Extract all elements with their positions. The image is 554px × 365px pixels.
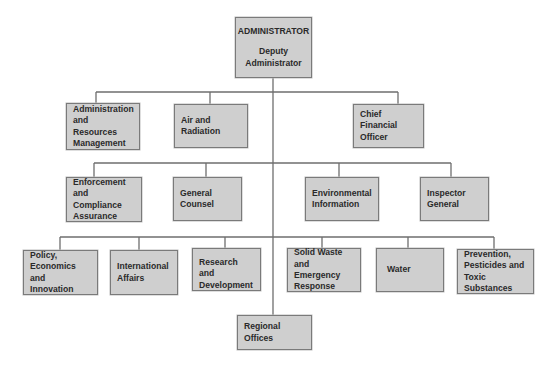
box-text-line: Research and — [199, 257, 254, 280]
box-text-line: and Compliance — [73, 188, 135, 211]
box-text-line: Solid Waste — [294, 247, 354, 258]
regional-offices-label: Regional Offices — [244, 321, 305, 344]
box-text-line: and Resources — [73, 115, 134, 138]
box-text-line: Air and — [181, 115, 220, 126]
box-text-line: Chief Financial — [360, 109, 417, 132]
box-text-line: General — [427, 199, 466, 210]
office-box-solid-waste-emergency: Solid Waste and Emergency Response — [287, 248, 361, 292]
deputy-label: Deputy — [259, 46, 288, 57]
office-box-general-counsel: General Counsel — [173, 177, 242, 221]
administrator-label: ADMINISTRATOR — [238, 26, 309, 37]
office-box-air-radiation: Air and Radiation — [174, 104, 248, 148]
box-text-line: Prevention, — [464, 249, 527, 260]
box-text-line: Administration — [73, 104, 134, 115]
box-text-line: Development — [199, 280, 254, 291]
box-text-line: Inspector — [427, 188, 466, 199]
box-text-line: General — [180, 188, 214, 199]
box-text-line: Policy, Economics — [30, 250, 91, 273]
box-text-line: Enforcement — [73, 177, 135, 188]
office-box-chief-financial-officer: Chief Financial Officer — [353, 104, 424, 148]
box-text-line: International — [117, 261, 169, 272]
box-text-line: Pesticides and — [464, 260, 527, 271]
box-text-line: Information — [312, 199, 372, 210]
box-text-line: Water — [387, 264, 411, 275]
office-box-water: Water — [376, 248, 444, 292]
administrator-box: ADMINISTRATOR Deputy Administrator — [235, 17, 312, 78]
deputy-label-2: Administrator — [245, 58, 301, 69]
box-text-line: and Innovation — [30, 273, 91, 296]
regional-offices-box: Regional Offices — [237, 315, 312, 350]
box-text-line: Assurance — [73, 211, 135, 222]
office-box-research-development: Research and Development — [192, 248, 261, 291]
box-text-line: Toxic Substances — [464, 272, 527, 295]
office-box-policy-economics: Policy, Economics and Innovation — [23, 250, 98, 295]
box-text-line: Response — [294, 281, 354, 292]
box-text-line: Radiation — [181, 126, 220, 137]
office-box-enforcement-compliance: Enforcement and Compliance Assurance — [66, 177, 142, 222]
office-box-inspector-general: Inspector General — [420, 177, 489, 221]
office-box-international-affairs: International Affairs — [110, 250, 178, 295]
box-text-line: Affairs — [117, 273, 169, 284]
box-text-line: Counsel — [180, 199, 214, 210]
box-text-line: and Emergency — [294, 259, 354, 282]
box-text-line: Management — [73, 138, 134, 149]
box-text-line: Environmental — [312, 188, 372, 199]
office-box-environmental-information: Environmental Information — [305, 177, 379, 221]
box-text-line: Officer — [360, 132, 417, 143]
office-box-prevention-pesticides: Prevention, Pesticides and Toxic Substan… — [457, 249, 534, 294]
office-box-administration-resources: Administration and Resources Management — [66, 103, 140, 150]
